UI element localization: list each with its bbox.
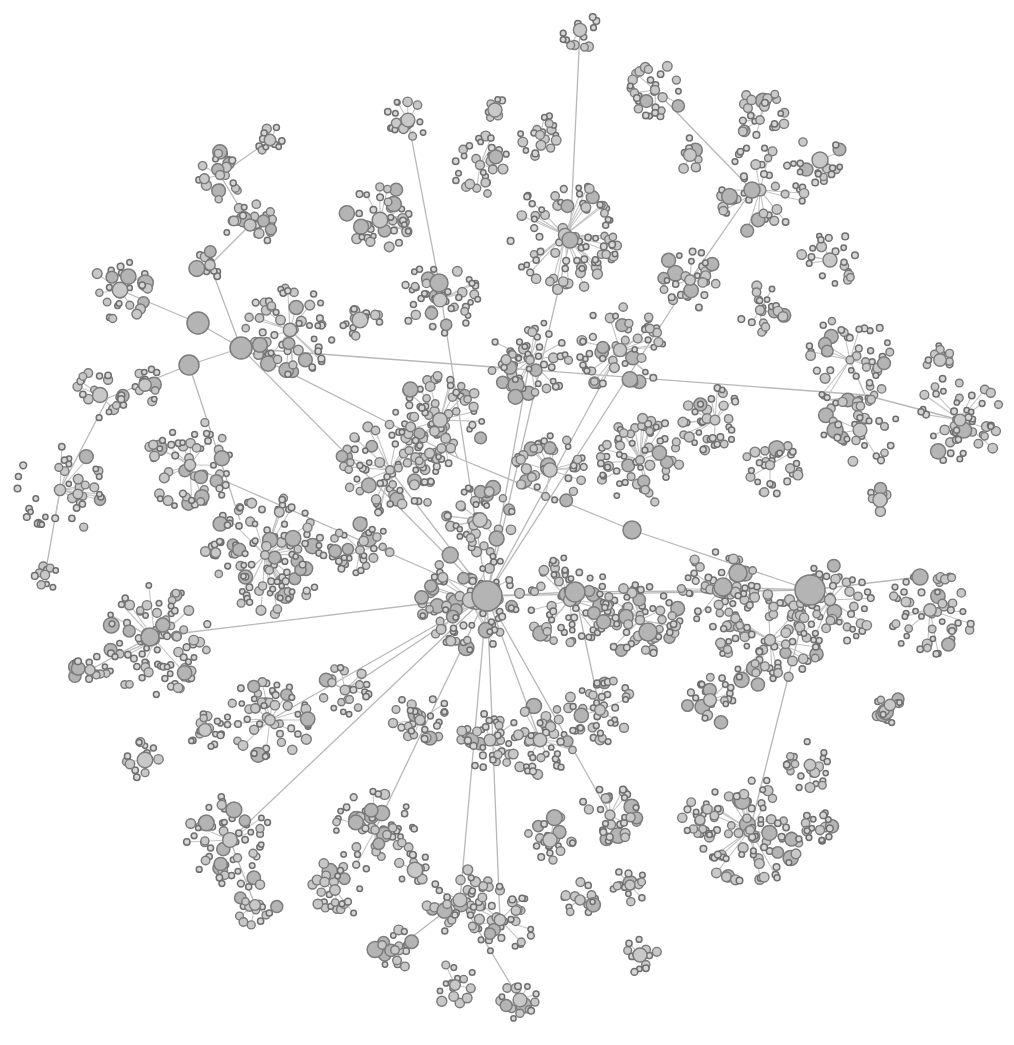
node [283,701,292,710]
node [600,355,606,361]
node [771,90,779,98]
node [225,563,231,569]
node [458,573,469,584]
node [562,266,568,272]
node [679,164,688,173]
node [274,507,284,517]
node [449,992,459,1002]
node [696,430,701,435]
node [586,634,592,640]
cluster-center-node [372,212,388,228]
node [850,577,856,583]
hub-node-n1 [430,274,448,292]
node [247,921,255,929]
node [550,637,557,644]
node [356,191,363,198]
node [742,585,748,591]
node [125,652,131,658]
node [352,332,360,340]
node [508,605,514,611]
node [453,158,459,164]
node [460,975,467,982]
node [146,583,151,588]
node [531,998,539,1006]
node [201,419,209,427]
node [170,430,176,436]
node [531,225,538,232]
node [285,531,301,547]
node [364,192,369,197]
cluster-center-node [812,152,828,168]
node [642,447,648,453]
node [779,119,788,128]
node [865,589,871,595]
node [315,323,320,328]
node [302,541,308,547]
node [957,456,963,462]
node [749,468,755,474]
node [822,345,834,357]
node [688,689,695,696]
node [456,294,462,300]
node [394,464,402,472]
node [377,194,384,201]
node [194,470,207,483]
node [464,396,471,403]
node [661,593,667,599]
node [881,449,888,456]
node [489,903,496,910]
node [420,130,425,135]
node [442,709,447,714]
node [409,480,419,490]
node [154,755,163,764]
node [318,355,325,362]
node [491,559,497,565]
node [986,388,995,397]
node [707,674,715,682]
node [511,906,520,915]
node [955,620,961,626]
node [520,707,529,716]
node [457,726,466,735]
node [857,415,863,421]
node [385,420,393,428]
node [289,589,294,594]
node [177,666,191,680]
node [759,209,767,217]
node [988,443,998,453]
node [123,625,135,637]
node [626,891,631,896]
node [677,253,682,258]
node [488,367,496,375]
node [224,522,230,528]
node [596,786,602,792]
node [527,269,534,276]
node [331,705,336,710]
node [258,215,270,227]
node [276,144,281,149]
node [799,138,807,146]
node [600,829,607,836]
node [769,602,778,611]
node [657,438,663,444]
node [172,452,179,459]
node [917,646,923,652]
node [184,839,190,845]
node [458,383,465,390]
node [438,573,448,583]
node [869,359,875,365]
node [506,741,512,747]
node [20,462,27,469]
node [821,750,827,756]
node [587,575,593,581]
node [744,145,750,151]
node [299,561,306,568]
node [536,344,542,350]
node [842,233,849,240]
node [411,283,418,290]
node [645,324,654,333]
node [686,135,692,141]
node [285,288,291,294]
hub-node-n2 [562,232,578,248]
node [625,319,633,327]
